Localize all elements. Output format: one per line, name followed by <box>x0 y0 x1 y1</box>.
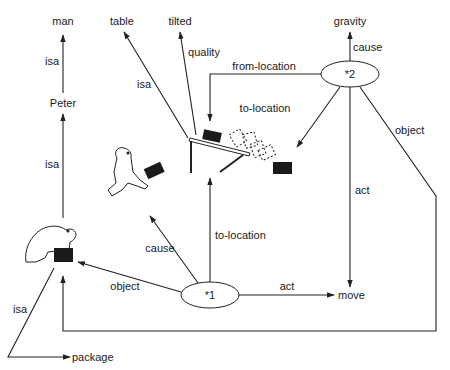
node-event-2-label: *2 <box>345 68 355 80</box>
package-icon <box>273 162 292 174</box>
node-move: move <box>338 289 365 301</box>
node-gravity: gravity <box>334 15 367 27</box>
package-icon <box>202 129 222 143</box>
edge-label-cause: cause <box>353 41 382 53</box>
edge-label-to-location: to-location <box>240 102 291 114</box>
package-icon <box>54 248 73 262</box>
edge-label-act: act <box>280 280 295 292</box>
edge-label-to-location: to-location <box>215 229 266 241</box>
edge-label-isa: isa <box>45 55 60 67</box>
edge-label-object: object <box>110 280 139 292</box>
tilted-table-illustration <box>189 129 292 174</box>
edge-label-isa: isa <box>13 303 28 315</box>
edge-table-isa <box>124 32 188 138</box>
node-tilted: tilted <box>168 15 191 27</box>
edge-label-act: act <box>355 184 370 196</box>
edge-e2-to-location <box>297 87 340 147</box>
jumping-bear-illustration <box>108 148 165 196</box>
package-icon <box>144 162 165 180</box>
edge-label-quality: quality <box>188 46 220 58</box>
node-event-1-label: *1 <box>205 289 215 301</box>
edge-label-cause: cause <box>145 242 174 254</box>
node-peter: Peter <box>50 97 77 109</box>
edge-e2-object <box>63 87 436 331</box>
edge-label-object: object <box>395 124 424 136</box>
node-table: table <box>110 15 134 27</box>
semantic-network-diagram: man isa Peter isa isa package table isa … <box>0 0 450 370</box>
edge-label-isa: isa <box>45 158 60 170</box>
bear-holding-package-illustration <box>26 226 76 262</box>
node-package: package <box>72 351 114 363</box>
edge-label-from-location: from-location <box>232 60 296 72</box>
edge-label-isa: isa <box>137 78 152 90</box>
node-man: man <box>52 15 73 27</box>
